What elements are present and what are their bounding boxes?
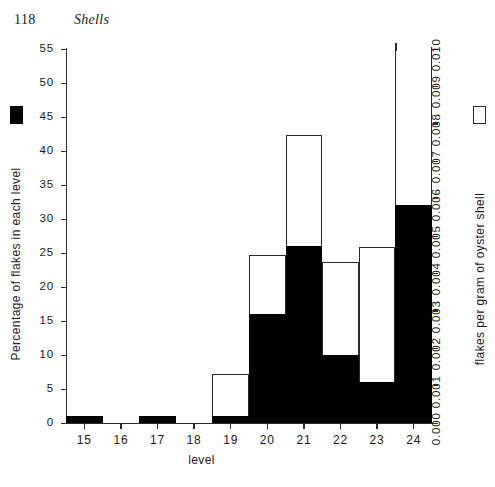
bar-group-level-24 — [395, 49, 432, 423]
x-axis-tick — [84, 424, 85, 429]
y-axis-left-tick — [61, 423, 66, 424]
y-axis-left-tick-label: 45 — [40, 111, 54, 123]
x-axis-tick-label-19: 19 — [211, 434, 251, 446]
y-axis-right-tick-label: 0.002 — [431, 338, 443, 371]
y-axis-right-tick-label: 0.006 — [431, 188, 443, 221]
x-axis-tick-label-16: 16 — [101, 434, 141, 446]
y-axis-left-tick — [61, 287, 66, 288]
y-axis-right-title-text: flakes per gram of oyster shell — [473, 193, 487, 365]
x-axis-tick-label-18: 18 — [174, 434, 214, 446]
bar-group-level-16 — [103, 49, 140, 423]
y-axis-left-tick-label: 35 — [40, 179, 54, 191]
legend-swatch-filled — [10, 106, 23, 124]
x-axis-tick — [376, 424, 377, 429]
x-axis-tick — [267, 424, 268, 429]
legend-swatch-open — [473, 106, 486, 124]
y-axis-left-title-text: Percentage of flakes in each level — [9, 167, 23, 360]
bar-group-level-20 — [249, 49, 286, 423]
x-axis-title: level — [0, 453, 495, 467]
y-axis-right-tick-label: 0.004 — [431, 263, 443, 296]
y-axis-right-tick-label: 0.007 — [431, 151, 443, 184]
bar-solid-level-21 — [286, 246, 323, 423]
x-axis-title-text: level — [188, 453, 215, 467]
plot-area — [66, 49, 432, 423]
y-axis-right-title: flakes per gram of oyster shell — [470, 154, 490, 404]
bar-solid-level-17 — [139, 416, 176, 423]
x-axis-tick — [340, 424, 341, 429]
x-axis-tick-label-21: 21 — [284, 434, 324, 446]
y-axis-left-tick-label: 30 — [40, 213, 54, 225]
y-axis-left-tick-label: 50 — [40, 77, 54, 89]
y-axis-left-tick — [61, 253, 66, 254]
figure-histogram: Percentage of flakes in each level flake… — [0, 34, 495, 487]
x-axis-tick-label-22: 22 — [321, 434, 361, 446]
y-axis-left-tick — [61, 185, 66, 186]
y-axis-left-tick — [61, 219, 66, 220]
y-axis-left-tick — [61, 321, 66, 322]
bar-solid-level-22 — [322, 355, 359, 423]
y-axis-right-tick-label: 0.009 — [431, 76, 443, 109]
y-axis-left-tick — [61, 117, 66, 118]
page-header: 118 Shells — [0, 12, 495, 34]
y-axis-left-tick — [61, 355, 66, 356]
y-axis-left-tick — [61, 389, 66, 390]
bar-solid-level-24 — [395, 205, 432, 423]
y-axis-left-tick-label: 15 — [40, 315, 54, 327]
x-axis-tick — [193, 424, 194, 429]
y-axis-right-tick-label: 0.008 — [431, 113, 443, 146]
y-axis-left-title: Percentage of flakes in each level — [6, 144, 26, 384]
bar-group-level-21 — [286, 49, 323, 423]
y-axis-left-tick-label: 55 — [40, 43, 54, 55]
y-axis-left-tick — [61, 151, 66, 152]
bar-solid-level-19 — [212, 416, 249, 423]
x-axis-tick-label-20: 20 — [247, 434, 287, 446]
y-axis-left-tick — [61, 49, 66, 50]
x-axis-tick-label-17: 17 — [138, 434, 178, 446]
x-axis-tick-label-23: 23 — [357, 434, 397, 446]
x-axis-tick — [413, 424, 414, 429]
x-axis-tick-label-15: 15 — [64, 434, 104, 446]
y-axis-left-tick-label: 0 — [47, 417, 54, 429]
bar-group-level-18 — [176, 49, 213, 423]
y-axis-right-tick-label: 0.005 — [431, 225, 443, 258]
bar-open-level-24-overflow — [395, 43, 396, 51]
x-axis-tick — [120, 424, 121, 429]
bar-group-level-22 — [322, 49, 359, 423]
bar-solid-level-23 — [359, 382, 396, 423]
y-axis-left-tick-label: 10 — [40, 349, 54, 361]
y-axis-left-tick-label: 25 — [40, 247, 54, 259]
y-axis-left-tick — [61, 83, 66, 84]
y-axis-left-tick-label: 20 — [40, 281, 54, 293]
running-head: Shells — [74, 12, 109, 28]
bar-group-level-19 — [212, 49, 249, 423]
x-axis-tick — [157, 424, 158, 429]
bar-solid-level-20 — [249, 314, 286, 423]
x-axis-tick — [303, 424, 304, 429]
folio-number: 118 — [14, 12, 36, 28]
y-axis-right-tick-label: 0.003 — [431, 300, 443, 333]
y-axis-right-tick-label: 0.001 — [431, 375, 443, 408]
x-axis-tick — [230, 424, 231, 429]
bar-solid-level-15 — [66, 416, 103, 423]
x-axis-tick-label-24: 24 — [394, 434, 434, 446]
y-axis-left-tick-label: 5 — [47, 383, 54, 395]
bar-group-level-23 — [359, 49, 396, 423]
y-axis-right-tick-label: 0.010 — [431, 38, 443, 71]
y-axis-left-tick-label: 40 — [40, 145, 54, 157]
bar-group-level-17 — [139, 49, 176, 423]
bar-group-level-15 — [66, 49, 103, 423]
